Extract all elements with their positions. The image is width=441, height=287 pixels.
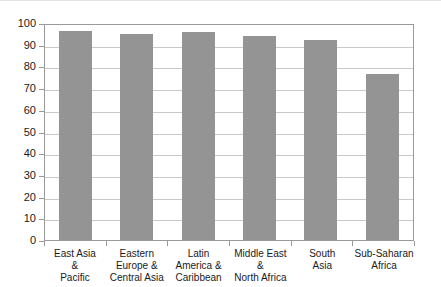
x-axis-tick-mark bbox=[414, 241, 415, 246]
y-axis-tick-label: 30 bbox=[24, 169, 36, 181]
x-axis-category-label: Latin America & Caribbean bbox=[168, 248, 230, 284]
x-axis-category-label: Sub-Saharan Africa bbox=[353, 248, 415, 284]
y-axis-tick-label: 70 bbox=[24, 82, 36, 94]
y-axis-tick-label: 60 bbox=[24, 104, 36, 116]
top-rule bbox=[0, 0, 441, 1]
x-axis-category-label: East Asia & Pacific bbox=[44, 248, 106, 284]
bars-group bbox=[45, 25, 413, 240]
bar-slot bbox=[229, 25, 290, 240]
bar-slot bbox=[106, 25, 167, 240]
bar[interactable] bbox=[366, 74, 399, 240]
x-axis-tick-mark bbox=[167, 241, 168, 246]
y-axis-tick-label: 90 bbox=[24, 39, 36, 51]
x-axis-tick-mark bbox=[106, 241, 107, 246]
plot-area bbox=[44, 24, 414, 241]
x-axis-tick-mark bbox=[44, 241, 45, 246]
bar[interactable] bbox=[182, 32, 215, 240]
bar-slot bbox=[168, 25, 229, 240]
x-axis-tick-mark bbox=[229, 241, 230, 246]
x-axis: East Asia & PacificEastern Europe & Cent… bbox=[44, 241, 415, 287]
y-axis-tick-label: 80 bbox=[24, 60, 36, 72]
bar[interactable] bbox=[120, 34, 153, 240]
x-axis-labels: East Asia & PacificEastern Europe & Cent… bbox=[44, 248, 415, 284]
bar-slot bbox=[352, 25, 413, 240]
x-axis-tick-mark bbox=[352, 241, 353, 246]
x-axis-category-label: Middle East & North Africa bbox=[229, 248, 291, 284]
bar[interactable] bbox=[304, 40, 337, 240]
y-axis: 0102030405060708090100 bbox=[0, 0, 44, 287]
bar-slot bbox=[290, 25, 351, 240]
y-axis-tick-label: 10 bbox=[24, 212, 36, 224]
x-axis-tick-mark bbox=[291, 241, 292, 246]
y-axis-tick-label: 0 bbox=[30, 234, 36, 246]
y-axis-tick-label: 20 bbox=[24, 191, 36, 203]
bar-slot bbox=[45, 25, 106, 240]
bar[interactable] bbox=[59, 31, 92, 240]
x-axis-category-label: Eastern Europe & Central Asia bbox=[106, 248, 168, 284]
y-axis-tick-label: 50 bbox=[24, 126, 36, 138]
x-axis-category-label: South Asia bbox=[291, 248, 353, 284]
bar[interactable] bbox=[243, 36, 276, 240]
y-axis-tick-label: 40 bbox=[24, 147, 36, 159]
bar-chart: 0102030405060708090100 East Asia & Pacif… bbox=[0, 0, 441, 287]
y-axis-tick-label: 100 bbox=[18, 17, 36, 29]
